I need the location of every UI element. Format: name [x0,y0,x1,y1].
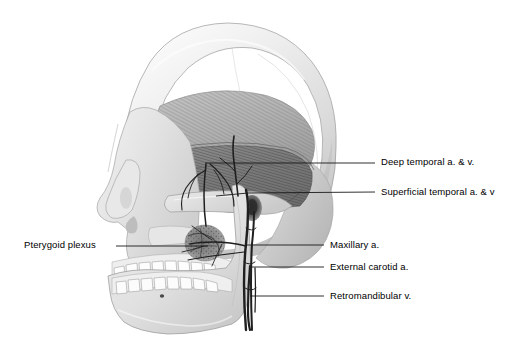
label-retromandibular-vein: Retromandibular v. [330,290,411,301]
mental-foramen [160,294,164,298]
skull-illustration [0,0,520,362]
label-pterygoid-plexus: Pterygoid plexus [24,239,96,250]
orbit [120,187,132,209]
anatomy-figure: Deep temporal a. & v. Superficial tempor… [0,0,520,362]
label-external-carotid-artery: External carotid a. [330,261,408,272]
label-maxillary-artery: Maxillary a. [330,239,379,250]
label-deep-temporal: Deep temporal a. & v. [381,156,474,167]
label-superficial-temporal: Superficial temporal a. & v [381,186,495,197]
